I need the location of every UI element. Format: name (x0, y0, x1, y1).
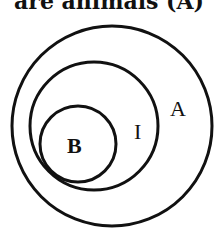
label-i: I (134, 121, 141, 143)
label-b: B (67, 135, 82, 157)
label-a: A (170, 98, 186, 120)
